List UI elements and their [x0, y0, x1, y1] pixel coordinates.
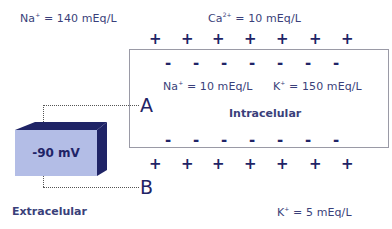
intracellular-label: Intracelular [229, 107, 301, 120]
minus-charge: - [246, 58, 258, 68]
plus-charge: + [276, 158, 288, 170]
voltmeter-reading: -90 mV [32, 146, 80, 160]
ion-value: = 10 mEq/L [183, 80, 252, 93]
minus-charge: - [274, 58, 286, 68]
plus-charge: + [181, 33, 193, 45]
ion-charge: 2+ [223, 11, 232, 18]
minus-charge: - [302, 58, 314, 68]
ion-symbol: Na [20, 12, 35, 25]
extracellular-na-concentration: Na+ = 140 mEq/L [20, 11, 117, 25]
extracellular-k-concentration: K+ = 5 mEq/L [277, 205, 352, 219]
plus-charge: + [149, 158, 161, 170]
minus-charge: - [190, 58, 202, 68]
wire-b-horizontal [43, 187, 139, 188]
minus-charge: - [274, 135, 286, 145]
minus-charge: - [162, 135, 174, 145]
plus-charge: + [181, 158, 193, 170]
plus-charge: + [309, 158, 321, 170]
minus-charge: - [218, 58, 230, 68]
ion-symbol: Na [163, 80, 178, 93]
plus-charge: + [149, 33, 161, 45]
extracellular-label: Extracelular [12, 205, 87, 218]
plus-charge: + [341, 33, 353, 45]
plus-charge: + [244, 158, 256, 170]
electrode-b-label: B [140, 178, 153, 196]
electrode-a-label: A [140, 96, 153, 114]
plus-charge: + [309, 33, 321, 45]
minus-charge: - [302, 135, 314, 145]
minus-charge: - [162, 58, 174, 68]
ion-value: = 10 mEq/L [232, 12, 301, 25]
plus-charge: + [341, 158, 353, 170]
plus-charge: + [212, 158, 224, 170]
ion-symbol: Ca [208, 12, 223, 25]
wire-a-horizontal [43, 105, 139, 106]
plus-charge: + [212, 33, 224, 45]
ion-value: = 140 mEq/L [40, 12, 116, 25]
extracellular-ca-concentration: Ca2+ = 10 mEq/L [208, 11, 301, 25]
plus-charge: + [244, 33, 256, 45]
voltmeter-display: -90 mV [15, 130, 97, 176]
ion-value: = 5 mEq/L [289, 206, 351, 219]
minus-charge: - [330, 135, 342, 145]
intracellular-k-concentration: K+ = 150 mEq/L [273, 79, 362, 93]
minus-charge: - [330, 58, 342, 68]
minus-charge: - [218, 135, 230, 145]
minus-charge: - [246, 135, 258, 145]
ion-value: = 150 mEq/L [285, 80, 361, 93]
plus-charge: + [276, 33, 288, 45]
intracellular-na-concentration: Na+ = 10 mEq/L [163, 79, 253, 93]
minus-charge: - [190, 135, 202, 145]
